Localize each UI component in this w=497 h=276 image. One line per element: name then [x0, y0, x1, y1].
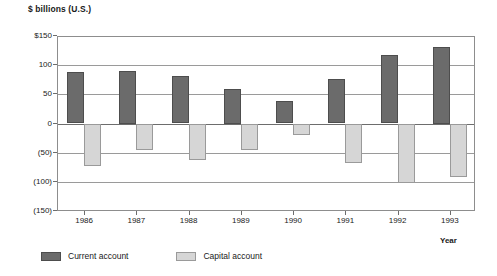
x-tick-mark — [241, 211, 242, 215]
bar-capital-account-1986 — [84, 124, 101, 166]
legend-item-current-account: Current account — [41, 252, 128, 261]
x-axis-title: Year — [440, 236, 457, 245]
y-tick-mark — [53, 93, 57, 94]
y-tick-label: (50) — [0, 149, 52, 157]
legend-swatch-capital — [176, 252, 196, 261]
bar-current-account-1993 — [433, 47, 450, 124]
legend-label: Capital account — [203, 252, 262, 261]
legend-label: Current account — [68, 252, 128, 261]
bar-capital-account-1990 — [293, 124, 310, 136]
bar-capital-account-1992 — [398, 124, 415, 184]
x-tick-label-1990: 1990 — [270, 216, 316, 225]
bar-capital-account-1988 — [189, 124, 206, 160]
y-tick-label: 100 — [0, 61, 52, 69]
bar-group — [423, 36, 475, 211]
x-tick-mark — [293, 211, 294, 215]
x-tick-mark — [398, 211, 399, 215]
y-tick-mark — [53, 181, 57, 182]
y-tick-mark — [53, 210, 57, 211]
bar-group — [162, 36, 214, 211]
x-tick-mark — [345, 211, 346, 215]
x-tick-mark — [189, 211, 190, 215]
x-tick-label-1993: 1993 — [427, 216, 473, 225]
bar-capital-account-1991 — [345, 124, 362, 164]
y-axis-title: $ billions (U.S.) — [28, 4, 91, 14]
y-tick-label: $150 — [0, 32, 52, 40]
bar-groups — [57, 36, 475, 211]
bar-current-account-1987 — [119, 71, 136, 124]
bar-current-account-1992 — [381, 55, 398, 124]
y-tick-mark — [53, 152, 57, 153]
bar-current-account-1991 — [328, 79, 345, 123]
bar-group — [109, 36, 161, 211]
x-tick-mark — [136, 211, 137, 215]
bar-group — [371, 36, 423, 211]
x-tick-label-1992: 1992 — [375, 216, 421, 225]
chart-legend: Current accountCapital account — [41, 252, 310, 261]
y-tick-label: 50 — [0, 90, 52, 98]
y-tick-label: 0 — [0, 120, 52, 128]
bar-capital-account-1993 — [450, 124, 467, 178]
legend-item-capital-account: Capital account — [176, 252, 262, 261]
bar-current-account-1989 — [224, 89, 241, 124]
bar-group — [214, 36, 266, 211]
x-tick-label-1988: 1988 — [166, 216, 212, 225]
bar-current-account-1986 — [67, 72, 84, 123]
bar-capital-account-1989 — [241, 124, 258, 151]
y-tick-mark — [53, 123, 57, 124]
y-tick-label: (150) — [0, 207, 52, 215]
bar-group — [57, 36, 109, 211]
x-tick-label-1986: 1986 — [61, 216, 107, 225]
y-tick-mark — [53, 35, 57, 36]
x-tick-label-1987: 1987 — [113, 216, 159, 225]
y-tick-label: (100) — [0, 178, 52, 186]
x-tick-label-1989: 1989 — [218, 216, 264, 225]
x-tick-mark — [450, 211, 451, 215]
legend-swatch-current — [41, 252, 61, 261]
bar-current-account-1990 — [276, 101, 293, 123]
bar-group — [266, 36, 318, 211]
bar-current-account-1988 — [172, 76, 189, 124]
y-tick-mark — [53, 64, 57, 65]
bar-group — [318, 36, 370, 211]
bar-capital-account-1987 — [136, 124, 153, 150]
x-tick-label-1991: 1991 — [322, 216, 368, 225]
x-tick-mark — [84, 211, 85, 215]
bar-chart: $ billions (U.S.) $150100500(50)(100)(15… — [0, 0, 497, 276]
